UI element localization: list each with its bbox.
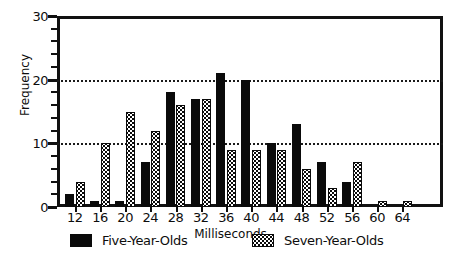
y-axis-title: Frequency [18,25,32,145]
x-tick-label: 36 [218,210,234,225]
bar-seven-year-olds-40 [252,150,261,207]
y-tick-major [48,15,57,18]
x-tick-label: 60 [369,210,385,225]
y-tick-minor [51,53,57,55]
bar-seven-year-olds-60 [378,201,387,207]
legend-item-five-year-olds: Five-Year-Olds [70,233,187,248]
y-tick-label: 10 [32,136,48,151]
bar-five-year-olds-40 [241,80,250,207]
bar-seven-year-olds-64 [403,201,412,207]
bar-seven-year-olds-36 [227,150,236,207]
bar-seven-year-olds-20 [126,112,135,208]
bar-seven-year-olds-44 [277,150,286,207]
bar-seven-year-olds-28 [176,105,185,207]
x-tick-label: 32 [193,210,209,225]
y-tick-minor [51,40,57,42]
y-tick-label: 30 [32,9,48,24]
stippled-swatch-icon [252,234,274,247]
bar-five-year-olds-44 [267,143,276,207]
bar-five-year-olds-32 [191,99,200,207]
y-tick-minor [51,193,57,195]
x-tick-label: 20 [117,210,133,225]
bar-five-year-olds-52 [317,162,326,207]
y-tick-minor [51,28,57,30]
plot-area [57,16,443,207]
x-tick-label: 48 [294,210,310,225]
chart-legend: Five-Year-Olds Seven-Year-Olds [0,233,461,255]
bar-seven-year-olds-12 [76,182,85,207]
bar-seven-year-olds-16 [101,143,110,207]
legend-label: Five-Year-Olds [102,233,187,248]
chart-root: 0102030 Frequency 1216202428323640444852… [0,0,461,260]
y-tick-minor [51,181,57,183]
bar-five-year-olds-56 [342,182,351,207]
y-tick-major [48,142,57,145]
legend-label: Seven-Year-Olds [284,233,383,248]
bar-seven-year-olds-52 [328,188,337,207]
y-tick-minor [51,155,57,157]
y-tick-minor [51,91,57,93]
legend-item-seven-year-olds: Seven-Year-Olds [252,233,383,248]
bar-five-year-olds-16 [90,201,99,207]
x-tick-label: 28 [168,210,184,225]
bar-five-year-olds-20 [115,201,124,207]
bar-seven-year-olds-48 [302,169,311,207]
bar-five-year-olds-12 [65,194,74,207]
y-tick-minor [51,130,57,132]
bar-five-year-olds-28 [166,92,175,207]
x-tick-label: 12 [67,210,83,225]
x-tick-label: 40 [243,210,259,225]
bar-five-year-olds-48 [292,124,301,207]
y-tick-minor [51,168,57,170]
bar-seven-year-olds-56 [353,162,362,207]
y-tick-label: 0 [40,200,48,215]
bar-seven-year-olds-24 [151,131,160,207]
x-tick-label: 56 [344,210,360,225]
bar-five-year-olds-36 [216,73,225,207]
x-tick-label: 16 [92,210,108,225]
y-tick-major [48,206,57,209]
x-tick-label: 24 [143,210,159,225]
x-tick-label: 52 [319,210,335,225]
bar-seven-year-olds-32 [202,99,211,207]
y-tick-minor [51,117,57,119]
y-tick-minor [51,66,57,68]
solid-swatch-icon [70,234,92,247]
y-tick-minor [51,104,57,106]
bar-five-year-olds-24 [141,162,150,207]
y-tick-major [48,79,57,82]
x-tick-label: 64 [395,210,411,225]
x-tick-label: 44 [269,210,285,225]
y-tick-label: 20 [32,72,48,87]
